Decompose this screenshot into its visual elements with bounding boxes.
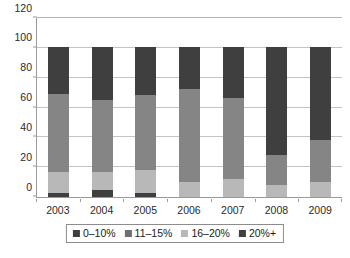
bar-segment[interactable] <box>92 47 113 100</box>
bar-segment[interactable] <box>92 100 113 172</box>
bar-segment[interactable] <box>135 95 156 170</box>
bar-stack[interactable] <box>48 47 69 197</box>
bar-segment[interactable] <box>310 182 331 197</box>
y-axis-tick-label: 120 <box>14 2 32 13</box>
y-axis-tick-label: 60 <box>20 92 32 103</box>
bar-segment[interactable] <box>310 47 331 140</box>
bar-segment[interactable] <box>223 179 244 197</box>
legend-item[interactable]: 16–20% <box>181 228 230 239</box>
bar-group-2003[interactable] <box>37 18 81 197</box>
legend-swatch-icon <box>73 230 80 237</box>
bar-stack[interactable] <box>92 47 113 197</box>
x-axis-tick-label-2008: 2008 <box>255 199 299 217</box>
bar-segment[interactable] <box>92 172 113 190</box>
legend-label: 20%+ <box>249 228 276 239</box>
legend-swatch-icon <box>181 230 188 237</box>
bar-segment[interactable] <box>135 193 156 198</box>
bar-group-2005[interactable] <box>124 18 168 197</box>
x-axis-tick-label-2009: 2009 <box>298 199 342 217</box>
x-axis-tick-label-2005: 2005 <box>123 199 167 217</box>
bar-group-2008[interactable] <box>255 18 299 197</box>
bar-segment[interactable] <box>266 185 287 197</box>
y-axis-tick-label: 100 <box>14 32 32 43</box>
bar-stack[interactable] <box>135 47 156 197</box>
y-axis-tick-label: 40 <box>20 122 32 133</box>
legend-swatch-icon <box>239 230 246 237</box>
bars-layer <box>37 18 342 197</box>
bar-segment[interactable] <box>48 172 69 193</box>
bar-segment[interactable] <box>48 47 69 94</box>
legend-item[interactable]: 20%+ <box>239 228 276 239</box>
x-axis-tick-label-2004: 2004 <box>80 199 124 217</box>
bar-segment[interactable] <box>223 47 244 98</box>
legend-label: 16–20% <box>191 228 230 239</box>
bar-stack[interactable] <box>223 47 244 197</box>
y-axis-tick-label: 80 <box>20 62 32 73</box>
bar-segment[interactable] <box>48 94 69 172</box>
x-axis-tick-label-2006: 2006 <box>167 199 211 217</box>
x-axis-tick-label-2007: 2007 <box>211 199 255 217</box>
bar-group-2009[interactable] <box>298 18 342 197</box>
legend-label: 11–15% <box>135 228 173 239</box>
legend-label: 0–10% <box>83 228 116 239</box>
plot-area: 020406080100120 <box>36 18 342 198</box>
bar-segment[interactable] <box>266 155 287 185</box>
bar-stack[interactable] <box>266 47 287 197</box>
bar-segment[interactable] <box>179 89 200 182</box>
legend-item[interactable]: 0–10% <box>73 228 116 239</box>
bar-group-2006[interactable] <box>168 18 212 197</box>
bar-group-2004[interactable] <box>81 18 125 197</box>
bar-stack[interactable] <box>179 47 200 197</box>
bar-stack[interactable] <box>310 47 331 197</box>
chart-legend: 0–10%11–15%16–20%20%+ <box>66 224 284 243</box>
x-axis-labels: 2003200420052006200720082009 <box>36 199 342 217</box>
bar-segment[interactable] <box>266 47 287 155</box>
legend-swatch-icon <box>125 230 132 237</box>
bar-segment[interactable] <box>223 98 244 179</box>
bar-segment[interactable] <box>92 190 113 198</box>
bar-segment[interactable] <box>310 140 331 182</box>
bar-segment[interactable] <box>135 170 156 193</box>
x-axis-tick-label-2003: 2003 <box>36 199 80 217</box>
chart-container: 020406080100120 200320042005200620072008… <box>0 0 350 258</box>
bar-segment[interactable] <box>179 182 200 197</box>
y-axis-tick-label: 0 <box>26 181 32 192</box>
bar-segment[interactable] <box>179 47 200 89</box>
bar-segment[interactable] <box>48 193 69 198</box>
legend-item[interactable]: 11–15% <box>125 228 173 239</box>
bar-group-2007[interactable] <box>211 18 255 197</box>
bar-segment[interactable] <box>135 47 156 95</box>
y-axis-tick-label: 20 <box>20 151 32 162</box>
